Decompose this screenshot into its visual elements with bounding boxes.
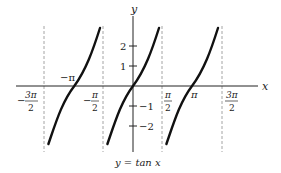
x-tick-label-neg-pi-2: − π 2	[83, 90, 99, 113]
svg-text:π: π	[164, 90, 172, 100]
y-axis-label: y	[130, 3, 138, 16]
tangent-graph: x y 2 1 −1 −2 −π π − 3π 2 − π 2 π 2 3π 2…	[0, 0, 281, 173]
x-tick-label-neg-pi: −π	[60, 72, 75, 83]
x-tick-label-pi: π	[190, 89, 198, 100]
svg-text:π: π	[91, 90, 99, 100]
chart-caption: y = tan x	[114, 157, 161, 168]
x-tick-label-pi-2: π 2	[164, 90, 172, 113]
x-tick-label-neg-3pi-2: − 3π 2	[17, 90, 38, 113]
y-tick-label-2: 2	[120, 41, 126, 52]
svg-text:−: −	[83, 95, 91, 106]
svg-text:2: 2	[28, 103, 34, 113]
x-axis-label: x	[262, 80, 269, 93]
svg-text:2: 2	[92, 103, 98, 113]
svg-text:2: 2	[229, 103, 235, 113]
svg-text:3π: 3π	[226, 90, 239, 100]
x-tick-label-3pi-2: 3π 2	[225, 90, 239, 113]
y-tick-label-1: 1	[120, 61, 126, 72]
y-tick-label-neg1: −1	[139, 101, 154, 112]
svg-text:3π: 3π	[25, 90, 38, 100]
y-tick-label-neg2: −2	[139, 121, 154, 132]
svg-text:2: 2	[165, 103, 171, 113]
